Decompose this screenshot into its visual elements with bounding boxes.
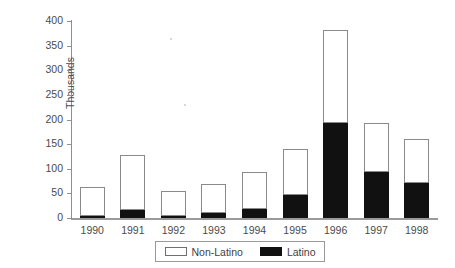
- y-tick-label: 350: [45, 39, 63, 51]
- chart-figure: Thousands 050100150200250300350400 19901…: [0, 0, 455, 268]
- x-tick-label: 1997: [356, 224, 396, 236]
- x-tick-label: 1990: [72, 224, 112, 236]
- x-tick-label: 1998: [397, 224, 437, 236]
- bar-column: [201, 21, 226, 218]
- bar-column: [323, 21, 348, 218]
- legend-item-non-latino: Non-Latino: [165, 246, 243, 258]
- y-tick-label: 250: [45, 88, 63, 100]
- y-tick-mark: [67, 95, 72, 96]
- bar-column: [120, 21, 145, 218]
- bar-stack: [120, 155, 145, 218]
- y-tick-label: 300: [45, 63, 63, 75]
- bar-segment-non-latino: [201, 184, 226, 213]
- y-tick-label: 150: [45, 137, 63, 149]
- bar-segment-latino: [404, 183, 429, 218]
- bar-segment-latino: [161, 216, 186, 218]
- legend-label-non-latino: Non-Latino: [192, 246, 243, 258]
- y-tick-mark: [67, 144, 72, 145]
- x-tick-label: 1996: [316, 224, 356, 236]
- bar-segment-latino: [242, 209, 267, 218]
- x-tick-label: 1991: [113, 224, 153, 236]
- bar-column: [364, 21, 389, 218]
- legend-label-latino: Latino: [287, 246, 316, 258]
- y-tick-mark: [67, 218, 72, 219]
- legend-item-latino: Latino: [260, 246, 316, 258]
- bar-stack: [161, 191, 186, 218]
- y-tick-mark: [67, 120, 72, 121]
- bar-segment-latino: [80, 216, 105, 218]
- bar-segment-non-latino: [242, 172, 267, 209]
- bar-segment-non-latino: [404, 139, 429, 183]
- y-tick-mark: [67, 169, 72, 170]
- y-tick-label: 50: [51, 186, 63, 198]
- legend: Non-Latino Latino: [155, 241, 325, 262]
- bar-column: [161, 21, 186, 218]
- bar-stack: [283, 149, 308, 218]
- legend-swatch-latino: [260, 247, 282, 256]
- y-tick-label: 200: [45, 113, 63, 125]
- x-axis-line: [71, 218, 438, 220]
- y-tick-mark: [67, 193, 72, 194]
- bar-stack: [201, 184, 226, 218]
- bar-column: [404, 21, 429, 218]
- bar-segment-non-latino: [80, 187, 105, 215]
- bar-stack: [323, 30, 348, 218]
- y-tick-mark: [67, 21, 72, 22]
- bar-segment-non-latino: [323, 30, 348, 123]
- bar-column: [283, 21, 308, 218]
- bar-stack: [80, 187, 105, 218]
- bar-segment-non-latino: [364, 123, 389, 172]
- y-tick-label: 100: [45, 162, 63, 174]
- y-tick-label: 0: [57, 211, 63, 223]
- x-tick-label: 1994: [235, 224, 275, 236]
- bar-segment-latino: [201, 213, 226, 218]
- bar-segment-latino: [120, 210, 145, 218]
- plot-area: Thousands 050100150200250300350400: [72, 21, 437, 218]
- y-tick-label: 400: [45, 14, 63, 26]
- x-tick-label: 1992: [153, 224, 193, 236]
- bar-column: [242, 21, 267, 218]
- bar-segment-latino: [323, 123, 348, 218]
- bar-stack: [404, 139, 429, 218]
- bar-segment-latino: [364, 172, 389, 218]
- y-tick-mark: [67, 70, 72, 71]
- x-tick-label: 1993: [194, 224, 234, 236]
- legend-swatch-non-latino: [165, 247, 187, 256]
- bar-segment-non-latino: [120, 155, 145, 210]
- bar-stack: [364, 123, 389, 218]
- x-tick-label: 1995: [275, 224, 315, 236]
- bar-segment-non-latino: [283, 149, 308, 195]
- bar-column: [80, 21, 105, 218]
- bar-segment-non-latino: [161, 191, 186, 216]
- bar-segment-latino: [283, 195, 308, 218]
- y-tick-mark: [67, 46, 72, 47]
- y-axis-title: Thousands: [64, 57, 76, 109]
- bar-stack: [242, 172, 267, 218]
